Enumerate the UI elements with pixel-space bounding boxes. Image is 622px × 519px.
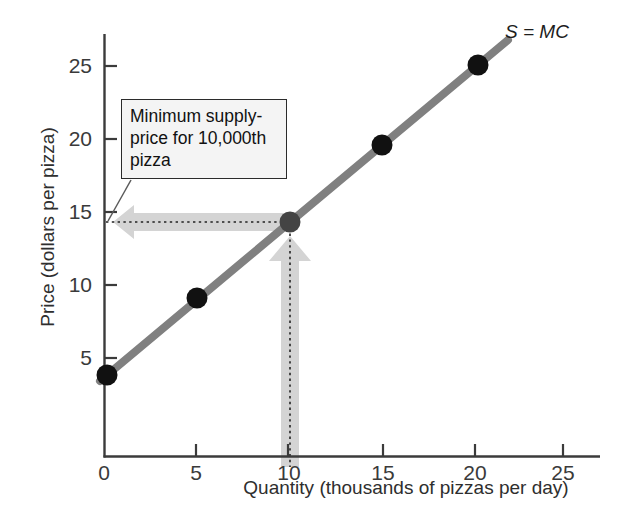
- data-point-marker: [187, 288, 208, 309]
- supply-curve-figure: 25 20 15 10 5 0 5 10 15 20 25 Quantity (…: [0, 0, 622, 519]
- y-tick-label-25: 25: [52, 54, 92, 78]
- supply-curve-label: S = MC: [505, 21, 569, 43]
- supply-curve-line: [100, 40, 508, 381]
- x-tick-label-0: 0: [98, 461, 110, 485]
- data-point-marker: [468, 55, 489, 76]
- data-point-marker: [280, 212, 301, 233]
- x-axis-ticks: [196, 444, 563, 457]
- data-point-marker: [97, 365, 118, 386]
- callout-box: Minimum supply- price for 10,000th pizza: [121, 99, 287, 179]
- x-axis-title: Quantity (thousands of pizzas per day): [196, 477, 616, 499]
- data-point-marker: [372, 135, 393, 156]
- y-axis-ticks: [104, 66, 117, 358]
- chart-canvas: [0, 0, 622, 519]
- callout-text: Minimum supply- price for 10,000th pizza: [130, 105, 279, 171]
- y-axis-title: Price (dollars per pizza): [37, 87, 59, 367]
